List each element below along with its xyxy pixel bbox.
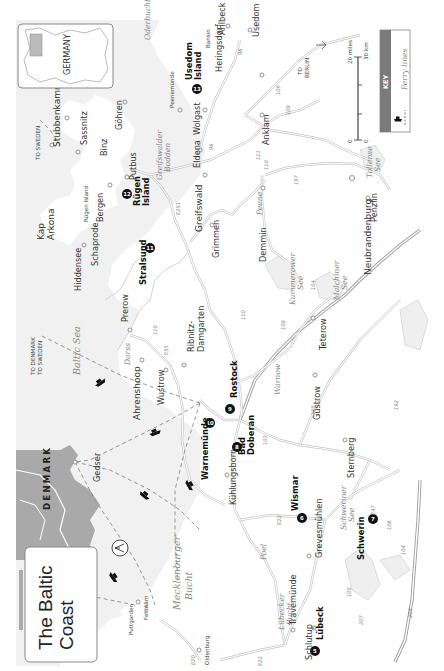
- label-stralsund[interactable]: Stralsund: [138, 239, 148, 285]
- map-title-line1: The Baltic: [35, 566, 56, 650]
- svg-text:96: 96: [237, 48, 243, 55]
- svg-text:Sternberg: Sternberg: [346, 437, 356, 478]
- svg-text:Ribnitz-: Ribnitz-: [186, 321, 196, 352]
- label-bad-doberan-line2[interactable]: Doberan: [246, 415, 256, 455]
- svg-text:Poel: Poel: [259, 543, 268, 561]
- svg-text:0: 0: [363, 139, 369, 143]
- svg-text:103: 103: [262, 435, 268, 445]
- svg-text:Eldena: Eldena: [192, 140, 202, 168]
- svg-text:Warnow: Warnow: [273, 363, 282, 395]
- svg-text:E47: E47: [370, 504, 376, 515]
- svg-text:Bansin: Bansin: [205, 29, 211, 48]
- label-wismar[interactable]: Wismar: [290, 475, 300, 511]
- svg-text:Usedom: Usedom: [251, 3, 261, 37]
- svg-text:Wolgast: Wolgast: [192, 102, 202, 135]
- label-warnemunde[interactable]: Warnemünde: [200, 417, 210, 480]
- svg-text:Greifswald: Greifswald: [194, 185, 204, 232]
- svg-text:Ferry lines: Ferry lines: [400, 48, 409, 91]
- svg-text:Puttgarden: Puttgarden: [128, 604, 135, 635]
- svg-text:Ahlbeck: Ahlbeck: [217, 2, 227, 35]
- svg-text:E251: E251: [175, 202, 181, 215]
- svg-text:Schaprode: Schaprode: [90, 222, 100, 266]
- inset-germany-label: GERMANY: [62, 33, 72, 75]
- svg-text:7: 7: [371, 516, 375, 522]
- svg-text:Darss: Darss: [123, 343, 132, 366]
- svg-text:Schweriner: Schweriner: [339, 485, 348, 530]
- svg-text:Prerow: Prerow: [120, 294, 130, 322]
- svg-text:BERLIN: BERLIN: [304, 58, 310, 78]
- svg-text:Penzlin: Penzlin: [369, 193, 379, 222]
- label-lubeck[interactable]: Lübeck: [315, 606, 325, 640]
- svg-text:109: 109: [275, 85, 281, 95]
- svg-text:30 km: 30 km: [363, 42, 369, 60]
- north-arrow-icon: [112, 540, 128, 556]
- svg-text:Peene: Peene: [255, 191, 264, 216]
- baltic-coast-map: 5 6 7 8 9 10 11 12 13 Lübeck Wismar Schw…: [0, 0, 444, 671]
- svg-text:Teterow: Teterow: [318, 318, 328, 351]
- svg-text:96: 96: [208, 143, 214, 150]
- svg-text:104: 104: [400, 545, 406, 555]
- svg-text:Arkona: Arkona: [46, 209, 56, 240]
- svg-text:Damgarten: Damgarten: [196, 306, 206, 352]
- svg-text:12: 12: [123, 191, 131, 197]
- svg-text:Demmin: Demmin: [258, 227, 268, 262]
- label-denmark: DENMARK: [42, 446, 52, 510]
- svg-text:E55: E55: [163, 344, 169, 355]
- svg-text:See: See: [296, 275, 305, 290]
- svg-text:E22: E22: [276, 515, 282, 525]
- svg-text:208: 208: [407, 607, 413, 618]
- svg-text:Baltic Sea: Baltic Sea: [71, 326, 82, 376]
- svg-text:Bucht: Bucht: [183, 571, 194, 601]
- svg-text:Mecklenburger: Mecklenburger: [171, 534, 182, 611]
- svg-text:TO SWEDEN: TO SWEDEN: [35, 126, 41, 161]
- svg-text:Bucht: Bucht: [285, 601, 294, 626]
- sight-marker-6[interactable]: 6: [297, 513, 307, 523]
- svg-text:110: 110: [240, 309, 246, 320]
- svg-text:Ahrenshoop: Ahrenshoop: [132, 366, 142, 420]
- label-usedom-island-line2[interactable]: Island: [193, 51, 203, 80]
- svg-text:Hiddensee: Hiddensee: [73, 248, 83, 291]
- svg-text:0: 0: [347, 139, 353, 143]
- svg-text:E47: E47: [143, 601, 149, 612]
- svg-text:207: 207: [358, 614, 364, 625]
- svg-text:TO: TO: [297, 67, 303, 76]
- svg-text:See: See: [373, 157, 382, 172]
- svg-text:192: 192: [393, 400, 399, 410]
- svg-text:6: 6: [300, 515, 304, 521]
- svg-text:13: 13: [193, 86, 201, 92]
- svg-text:KEY: KEY: [382, 75, 390, 89]
- svg-text:110: 110: [152, 324, 158, 335]
- svg-text:Binz: Binz: [99, 139, 109, 156]
- svg-text:Putbus: Putbus: [128, 152, 138, 180]
- svg-text:Sassnitz: Sassnitz: [79, 111, 89, 145]
- svg-text:Bergen: Bergen: [95, 193, 105, 222]
- svg-text:Wustrow: Wustrow: [156, 369, 166, 405]
- svg-text:Anklam: Anklam: [261, 114, 271, 145]
- svg-text:Kap: Kap: [36, 223, 46, 240]
- label-rugen-island-line2[interactable]: Island: [141, 177, 151, 206]
- svg-text:20 miles: 20 miles: [347, 40, 353, 64]
- svg-text:See: See: [347, 507, 356, 522]
- svg-text:109: 109: [285, 105, 291, 115]
- svg-text:111: 111: [255, 150, 261, 160]
- svg-text:Peenemünde: Peenemünde: [169, 71, 175, 108]
- sight-marker-9[interactable]: 9: [225, 404, 235, 414]
- sight-marker-13[interactable]: 13: [192, 84, 202, 94]
- sight-marker-12[interactable]: 12: [122, 189, 132, 199]
- svg-text:106: 106: [386, 519, 392, 530]
- svg-text:Schlutup: Schlutup: [304, 624, 314, 660]
- svg-text:Bodden: Bodden: [163, 143, 172, 173]
- svg-text:Rügen Island: Rügen Island: [83, 185, 90, 222]
- svg-text:197: 197: [293, 174, 299, 185]
- svg-text:Grevesmühlen: Grevesmühlen: [314, 498, 324, 558]
- svg-text:TO SWEDEN: TO SWEDEN: [37, 341, 43, 376]
- svg-text:Gedser: Gedser: [92, 452, 102, 482]
- label-rostock[interactable]: Rostock: [229, 360, 239, 398]
- svg-text:E22: E22: [257, 656, 263, 666]
- svg-text:105: 105: [346, 586, 352, 597]
- highlighted-region-icon: [30, 34, 42, 56]
- svg-text:108: 108: [280, 319, 286, 330]
- map-title-line2: Coast: [56, 600, 77, 650]
- svg-text:Kühlungsborn: Kühlungsborn: [228, 449, 238, 505]
- label-schwerin[interactable]: Schwerin: [356, 517, 366, 560]
